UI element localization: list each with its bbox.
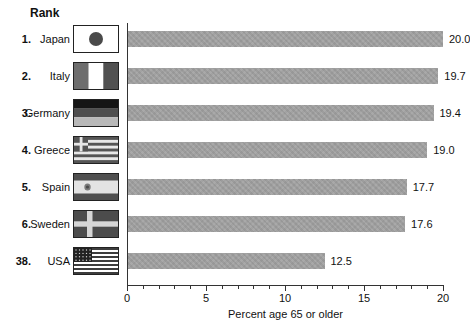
major-tick-0 — [127, 286, 128, 291]
minor-tick-8 — [253, 286, 254, 289]
minor-tick-3 — [174, 286, 175, 289]
bar-italy — [127, 68, 438, 84]
value-label-japan: 20.0 — [449, 32, 470, 46]
spain-flag-icon — [73, 173, 119, 201]
tick-label-15: 15 — [349, 292, 379, 304]
chart-figure: Rank 1.Japan20.02.Italy19.73.Germany19.4… — [0, 0, 470, 327]
country-label-italy: Italy — [18, 69, 70, 83]
minor-tick-13 — [332, 286, 333, 289]
y-axis-line — [127, 23, 128, 285]
country-label-spain: Spain — [18, 180, 70, 194]
major-tick-20 — [443, 286, 444, 291]
greece-flag-icon — [73, 136, 119, 164]
country-label-germany: Germany — [18, 106, 70, 120]
value-label-spain: 17.7 — [413, 180, 434, 194]
minor-tick-12 — [317, 286, 318, 289]
major-tick-5 — [206, 286, 207, 291]
country-label-japan: Japan — [18, 32, 70, 46]
major-tick-15 — [364, 286, 365, 291]
tick-label-0: 0 — [112, 292, 142, 304]
rank-column-header: Rank — [30, 6, 59, 20]
minor-tick-7 — [238, 286, 239, 289]
value-label-germany: 19.4 — [440, 106, 461, 120]
value-label-usa: 12.5 — [331, 254, 352, 268]
germany-flag-icon — [73, 99, 119, 127]
value-label-greece: 19.0 — [433, 143, 454, 157]
bar-greece — [127, 142, 427, 158]
bar-sweden — [127, 216, 405, 232]
italy-flag-icon — [73, 62, 119, 90]
tick-label-10: 10 — [270, 292, 300, 304]
bar-usa — [127, 253, 325, 269]
major-tick-10 — [285, 286, 286, 291]
value-label-italy: 19.7 — [444, 69, 465, 83]
minor-tick-4 — [190, 286, 191, 289]
country-label-usa: USA — [18, 254, 70, 268]
minor-tick-6 — [222, 286, 223, 289]
minor-tick-9 — [269, 286, 270, 289]
tick-label-5: 5 — [191, 292, 221, 304]
minor-tick-2 — [159, 286, 160, 289]
minor-tick-17 — [396, 286, 397, 289]
country-label-sweden: Sweden — [18, 217, 70, 231]
tick-label-20: 20 — [428, 292, 458, 304]
japan-flag-icon — [73, 25, 119, 53]
x-axis-title: Percent age 65 or older — [127, 308, 444, 320]
country-label-greece: Greece — [18, 143, 70, 157]
bar-germany — [127, 105, 434, 121]
minor-tick-16 — [380, 286, 381, 289]
usa-flag-icon — [73, 247, 119, 275]
sweden-flag-icon — [73, 210, 119, 238]
minor-tick-18 — [411, 286, 412, 289]
minor-tick-1 — [143, 286, 144, 289]
value-label-sweden: 17.6 — [411, 217, 432, 231]
minor-tick-11 — [301, 286, 302, 289]
bar-spain — [127, 179, 407, 195]
bar-japan — [127, 31, 443, 47]
minor-tick-19 — [427, 286, 428, 289]
minor-tick-14 — [348, 286, 349, 289]
